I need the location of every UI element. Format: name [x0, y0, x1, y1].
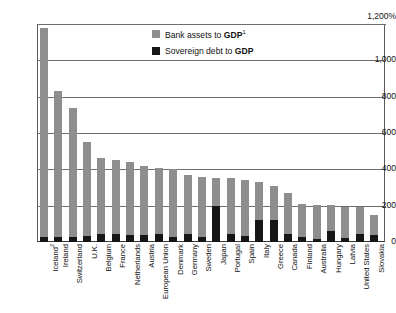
x-tick-label: Finland — [306, 244, 314, 313]
bar-sovereign-debt — [284, 234, 292, 242]
y-tick-label-1200: 1,200% — [362, 12, 396, 21]
bar-column — [327, 24, 335, 242]
x-tick-label: Australia — [320, 244, 328, 313]
bar-bank-assets — [54, 91, 62, 242]
bar-bank-assets — [112, 160, 120, 242]
x-tick-label: Austria — [148, 244, 156, 313]
legend-label-sovereign-debt: Sovereign debt to GDP — [165, 45, 253, 58]
bar-sovereign-debt — [313, 239, 321, 242]
x-tick-label: Sweden — [205, 244, 213, 313]
x-tick-label: Netherlands — [134, 244, 142, 313]
bar-sovereign-debt — [40, 237, 48, 242]
x-tick-label: Hungary — [335, 244, 343, 313]
bar-sovereign-debt — [184, 234, 192, 242]
legend-swatch-black — [152, 47, 160, 55]
bar-sovereign-debt — [83, 236, 91, 242]
bar-sovereign-debt — [370, 235, 378, 242]
x-tick-label: Slovakia — [378, 244, 386, 313]
legend-label-bank-assets: Bank assets to GDP1 — [165, 26, 246, 42]
bar-bank-assets — [40, 28, 48, 242]
bar-column — [97, 24, 105, 242]
bar-bank-assets — [97, 158, 105, 242]
bar-sovereign-debt — [155, 234, 163, 242]
bar-column — [255, 24, 263, 242]
bar-sovereign-debt — [241, 236, 249, 242]
bar-bank-assets — [241, 180, 249, 242]
x-tick-label: United States — [363, 244, 371, 313]
x-tick-label: Canada — [291, 244, 299, 313]
x-tick-label: Iceland2 — [48, 244, 60, 313]
bar-column — [313, 24, 321, 242]
bar-bank-assets — [126, 162, 134, 242]
legend-item-bank-assets: Bank assets to GDP1 — [152, 26, 253, 42]
bar-bank-assets — [69, 108, 77, 242]
legend-swatch-gray — [152, 30, 160, 38]
bar-sovereign-debt — [298, 237, 306, 242]
chart-legend: Bank assets to GDP1 Sovereign debt to GD… — [152, 26, 253, 61]
bar-column — [270, 24, 278, 242]
x-tick-label: Greece — [277, 244, 285, 313]
bank-assets-gdp-chart: 1,200%1,0008006004002000 Iceland2Ireland… — [0, 0, 396, 313]
x-tick-label: Portugal — [234, 244, 242, 313]
bar-column — [112, 24, 120, 242]
x-tick-label: Germany — [191, 244, 199, 313]
x-tick-label: France — [119, 244, 127, 313]
bar-bank-assets — [184, 175, 192, 242]
bar-column — [298, 24, 306, 242]
bar-sovereign-debt — [341, 238, 349, 242]
bar-bank-assets — [155, 168, 163, 242]
x-tick-label: Ireland — [62, 244, 70, 313]
bar-sovereign-debt — [327, 231, 335, 242]
bar-sovereign-debt — [270, 220, 278, 242]
bar-column — [284, 24, 292, 242]
bar-bank-assets — [313, 205, 321, 242]
x-tick-label: Belgium — [105, 244, 113, 313]
bar-bank-assets — [169, 169, 177, 242]
x-tick-label: Switzerland — [76, 244, 84, 313]
bar-bank-assets — [83, 142, 91, 242]
bar-column — [126, 24, 134, 242]
x-tick-label: Latvia — [349, 244, 357, 313]
bar-column — [356, 24, 364, 242]
bar-sovereign-debt — [126, 235, 134, 242]
bar-column — [370, 24, 378, 242]
bar-sovereign-debt — [227, 234, 235, 242]
legend-item-sovereign-debt: Sovereign debt to GDP — [152, 45, 253, 58]
bar-sovereign-debt — [69, 237, 77, 242]
bar-sovereign-debt — [198, 237, 206, 242]
x-tick-label: Spain — [248, 244, 256, 313]
bar-column — [69, 24, 77, 242]
bar-sovereign-debt — [255, 220, 263, 242]
bar-column — [140, 24, 148, 242]
x-tick-label: Denmark — [177, 244, 185, 313]
bar-column — [40, 24, 48, 242]
bar-sovereign-debt — [140, 235, 148, 242]
bar-column — [83, 24, 91, 242]
x-tick-label: Japan — [220, 244, 228, 313]
bar-sovereign-debt — [169, 237, 177, 242]
bar-bank-assets — [227, 178, 235, 242]
bar-sovereign-debt — [112, 234, 120, 242]
bar-bank-assets — [140, 166, 148, 242]
bar-column — [54, 24, 62, 242]
x-tick-label: U.K. — [91, 244, 99, 313]
bar-sovereign-debt — [54, 237, 62, 242]
x-tick-label: Italy — [263, 244, 271, 313]
bar-sovereign-debt — [212, 206, 220, 242]
bar-sovereign-debt — [356, 234, 364, 242]
bar-column — [341, 24, 349, 242]
x-axis-category-labels: Iceland2IrelandSwitzerlandU.K.BelgiumFra… — [38, 244, 385, 313]
x-tick-label: European Union — [162, 244, 170, 313]
bar-sovereign-debt — [97, 234, 105, 242]
bar-bank-assets — [341, 207, 349, 242]
bar-bank-assets — [198, 177, 206, 242]
